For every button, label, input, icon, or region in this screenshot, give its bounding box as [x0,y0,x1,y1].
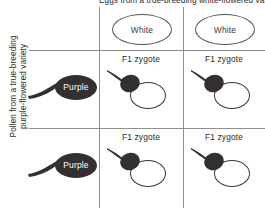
egg-gamete-col-2-label: White [214,25,236,35]
egg-gamete-col-1-label: White [131,25,153,35]
zygote-label-r2c2: F1 zygote [183,132,265,142]
zygote-figure-r1c1 [108,68,170,114]
grid-vline-left [99,7,100,208]
pollen-gamete-row-1: Purple [27,72,97,104]
zygote-figure-r2c1 [108,146,170,192]
pollen-head-row-1: Purple [55,75,97,100]
grid-hline-top [29,50,265,51]
column-axis-label: Eggs from a true-breeding white-flowered… [99,0,265,5]
cross-diagram: Eggs from a true-breeding white-flowered… [0,0,265,208]
grid-hline-mid [29,128,265,129]
zygote-figure-r2c2 [192,146,254,192]
zygote-label-r1c2: F1 zygote [183,54,265,64]
zygote-label-r2c1: F1 zygote [99,132,183,142]
zygote-figure-r1c2 [192,68,254,114]
pollen-gamete-row-2-label: Purple [63,160,88,170]
grid-vline-mid [183,7,184,208]
zygote-label-r1c1: F1 zygote [99,54,183,64]
row-axis-label-line-1: Pollen from a true-breeding [9,6,19,166]
egg-gamete-col-2: White [195,14,255,45]
pollen-gamete-row-2: Purple [27,150,97,182]
pollen-head-row-2: Purple [55,153,97,178]
pollen-gamete-row-1-label: Purple [63,82,88,92]
egg-gamete-col-1: White [112,14,172,45]
